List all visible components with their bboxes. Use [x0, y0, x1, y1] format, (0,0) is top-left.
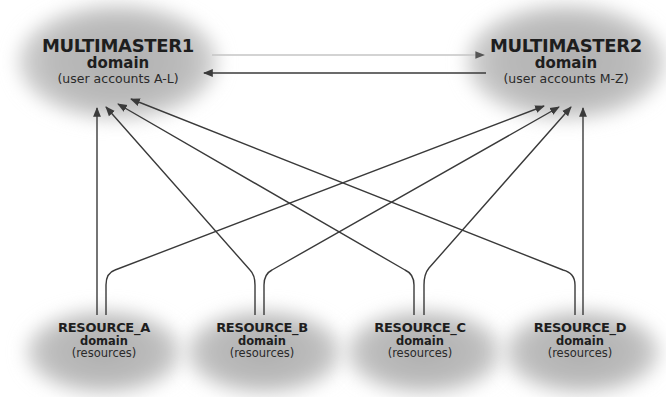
- node-description: (resources): [192, 347, 332, 360]
- node-multimaster1: MULTIMASTER1 domain (user accounts A-L): [18, 36, 218, 86]
- node-title: MULTIMASTER1: [18, 36, 218, 55]
- node-resource-c: RESOURCE_C domain (resources): [350, 321, 490, 360]
- arrow-rc-to-mm1: [118, 104, 414, 315]
- node-resource-a: RESOURCE_A domain (resources): [34, 321, 174, 360]
- node-description: (resources): [510, 347, 650, 360]
- node-description: (resources): [34, 347, 174, 360]
- node-description: (user accounts A-L): [18, 71, 218, 86]
- node-description: (user accounts M-Z): [466, 71, 666, 86]
- trust-arrows: [97, 99, 583, 315]
- node-resource-d: RESOURCE_D domain (resources): [510, 321, 650, 360]
- node-multimaster2: MULTIMASTER2 domain (user accounts M-Z): [466, 36, 666, 86]
- node-title: RESOURCE_D: [510, 321, 650, 335]
- node-description: (resources): [350, 347, 490, 360]
- node-title: RESOURCE_A: [34, 321, 174, 335]
- arrow-rd-to-mm1: [131, 99, 575, 315]
- node-resource-b: RESOURCE_B domain (resources): [192, 321, 332, 360]
- node-title: RESOURCE_C: [350, 321, 490, 335]
- node-title: RESOURCE_B: [192, 321, 332, 335]
- arrow-ra-to-mm2: [106, 106, 544, 315]
- node-subtitle: domain: [18, 55, 218, 71]
- arrow-rc-to-mm2: [424, 107, 571, 315]
- arrow-rb-to-mm2: [264, 107, 559, 315]
- node-title: MULTIMASTER2: [466, 36, 666, 55]
- arrow-rb-to-mm1: [106, 107, 255, 315]
- node-subtitle: domain: [466, 55, 666, 71]
